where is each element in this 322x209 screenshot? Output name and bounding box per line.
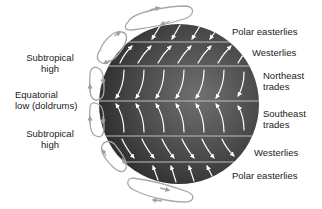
globe [90, 24, 270, 184]
label-polar-easterlies-north: Polar easterlies [232, 26, 297, 37]
label-subtropical-high-south: Subtropical high [20, 128, 80, 150]
label-northeast-trades: Northeast trades [263, 70, 304, 92]
label-equatorial-low: Equatorial low (doldrums) [15, 89, 77, 111]
label-subtropical-high-north: Subtropical high [20, 52, 80, 74]
label-polar-easterlies-south: Polar easterlies [232, 170, 297, 181]
label-southeast-trades: Southeast trades [263, 108, 306, 130]
label-westerlies-north: Westerlies [252, 47, 296, 58]
label-westerlies-south: Westerlies [254, 147, 298, 158]
